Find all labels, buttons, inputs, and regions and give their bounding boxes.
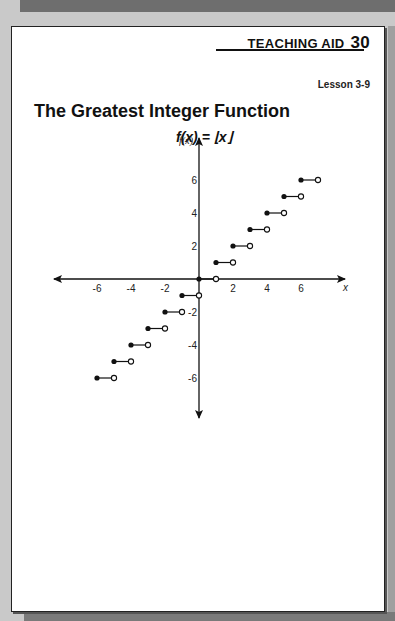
step-segment: [298, 177, 320, 182]
open-endpoint: [196, 293, 201, 298]
open-endpoint: [111, 375, 116, 380]
y-tick-label: -4: [188, 340, 197, 351]
y-tick-label: 6: [191, 175, 197, 186]
open-endpoint: [128, 359, 133, 364]
step-segment: [179, 293, 201, 298]
closed-endpoint: [213, 260, 218, 265]
open-endpoint: [162, 326, 167, 331]
open-endpoint: [264, 227, 269, 232]
closed-endpoint: [162, 309, 167, 314]
open-endpoint: [247, 243, 252, 248]
x-tick-label: -4: [127, 283, 136, 294]
open-endpoint: [281, 210, 286, 215]
step-segment: [264, 210, 286, 215]
x-tick-label: -2: [161, 283, 170, 294]
closed-endpoint: [128, 342, 133, 347]
closed-endpoint: [230, 243, 235, 248]
closed-endpoint: [298, 177, 303, 182]
open-endpoint: [213, 276, 218, 281]
step-segment: [213, 260, 235, 265]
closed-endpoint: [247, 227, 252, 232]
step-segment: [162, 309, 184, 314]
step-segment: [145, 326, 167, 331]
step-segment: [94, 375, 116, 380]
closed-endpoint: [145, 326, 150, 331]
open-endpoint: [179, 309, 184, 314]
open-endpoint: [298, 194, 303, 199]
step-segment: [128, 342, 150, 347]
closed-endpoint: [264, 210, 269, 215]
open-endpoint: [230, 260, 235, 265]
step-segment: [230, 243, 252, 248]
closed-endpoint: [179, 293, 184, 298]
step-segment: [111, 359, 133, 364]
y-tick-label: -2: [188, 307, 197, 318]
x-axis-label: x: [342, 282, 349, 293]
y-axis-label: f(x): [179, 135, 194, 147]
y-tick-label: -6: [188, 373, 197, 384]
closed-endpoint: [196, 276, 201, 281]
step-segment: [196, 276, 218, 281]
closed-endpoint: [94, 375, 99, 380]
closed-endpoint: [111, 359, 116, 364]
open-endpoint: [145, 342, 150, 347]
x-tick-label: 4: [264, 283, 270, 294]
open-endpoint: [315, 177, 320, 182]
closed-endpoint: [281, 194, 286, 199]
y-tick-label: 4: [191, 208, 197, 219]
step-segment: [247, 227, 269, 232]
y-tick-label: 2: [191, 241, 197, 252]
x-tick-label: 2: [230, 283, 236, 294]
x-tick-label: -6: [93, 283, 102, 294]
step-segment: [281, 194, 303, 199]
x-tick-label: 6: [298, 283, 304, 294]
step-function-graph: -6-4-2246 642-2-4-6 x f(x): [0, 0, 395, 621]
